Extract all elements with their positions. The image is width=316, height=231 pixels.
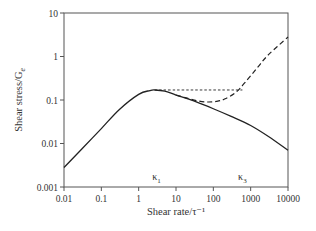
- y-tick-label: 0.001: [37, 183, 59, 193]
- y-tick-label: 10: [49, 9, 59, 19]
- y-tick-label: 0.01: [41, 139, 58, 149]
- y-axis-title-main: Shear stress/G: [13, 71, 24, 132]
- y-tick-label: 0.1: [46, 96, 58, 106]
- x-tick-label: 10: [171, 194, 181, 204]
- y-axis-title-subscript: e: [18, 67, 27, 71]
- plot-border: [64, 13, 288, 187]
- kappa-annotation: κ3: [238, 171, 247, 185]
- dashed-upturn-branch: [176, 37, 288, 102]
- x-tick-label: 1000: [241, 194, 260, 204]
- annotations: κ1κ3: [152, 171, 247, 185]
- x-tick-label: 0.01: [56, 194, 73, 204]
- x-tick-label: 100: [206, 194, 221, 204]
- data-series: [64, 37, 288, 168]
- solid-flow-curve: [64, 90, 288, 168]
- x-axis-title: Shear rate/τ⁻¹: [147, 206, 205, 217]
- shear-stress-chart: 0.010.1110100100010000 0.0010.010.1110 κ…: [0, 0, 316, 231]
- x-tick-label: 10000: [276, 194, 300, 204]
- x-tick-label: 1: [136, 194, 141, 204]
- y-tick-label: 1: [53, 52, 58, 62]
- kappa-annotation: κ1: [152, 171, 161, 185]
- x-tick-label: 0.1: [95, 194, 107, 204]
- y-axis-ticks: 0.0010.010.1110: [37, 9, 64, 193]
- x-axis-ticks: 0.010.1110100100010000: [56, 187, 300, 204]
- plot-frame: [64, 13, 288, 187]
- y-axis-title: Shear stress/Ge: [13, 67, 27, 131]
